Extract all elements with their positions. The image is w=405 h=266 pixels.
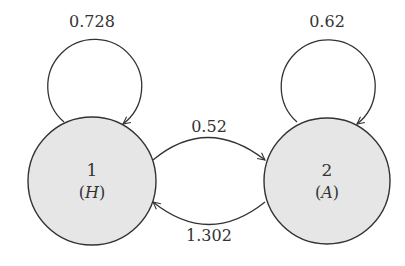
node-1-label: (H) [79,183,105,202]
edge-1-to-2 [153,138,265,161]
self-loop-edge-1 [48,39,142,124]
edge-label-1-1: 0.728 [69,12,115,31]
node-2-away: 2 (A) [264,118,390,244]
edge-label-2-2: 0.62 [309,12,345,31]
state-diagram: 0.728 0.62 0.52 1.302 1 (H) 2 (A) [0,0,405,266]
edge-label-2-1: 1.302 [186,226,232,245]
node-1-home: 1 (H) [28,117,156,245]
node-1-number: 1 [87,160,98,180]
self-loop-edge-2 [281,40,375,124]
node-2-label: (A) [315,183,339,202]
edge-2-to-1 [153,202,265,225]
edge-label-1-2: 0.52 [191,117,227,136]
node-2-number: 2 [322,160,333,180]
